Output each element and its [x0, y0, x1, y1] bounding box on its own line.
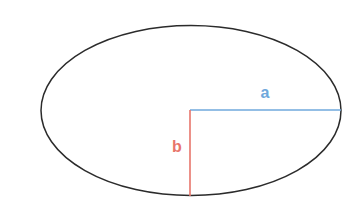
ellipse-diagram-svg: a b	[0, 0, 356, 212]
ellipse-diagram-canvas: a b	[0, 0, 356, 212]
semi-minor-axis-label: b	[172, 138, 182, 155]
semi-major-axis-label: a	[261, 84, 270, 101]
